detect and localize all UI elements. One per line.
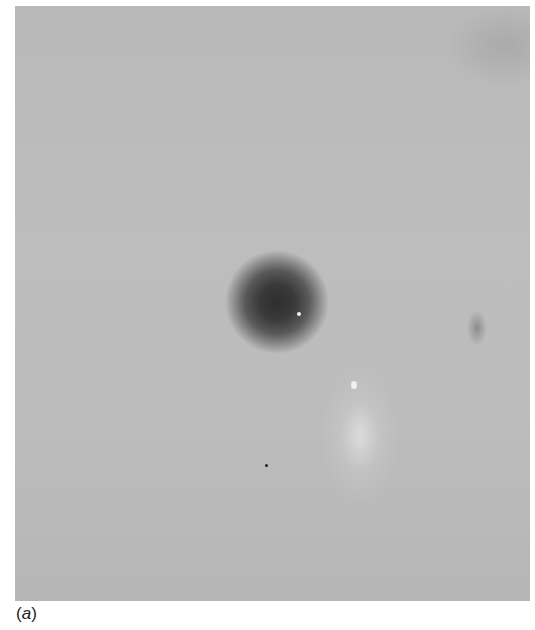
bright-glint (351, 381, 357, 389)
figure-photo (15, 6, 530, 601)
dark-speck (265, 464, 268, 467)
panel-label: (a) (16, 604, 37, 624)
bright-glint (297, 312, 301, 316)
